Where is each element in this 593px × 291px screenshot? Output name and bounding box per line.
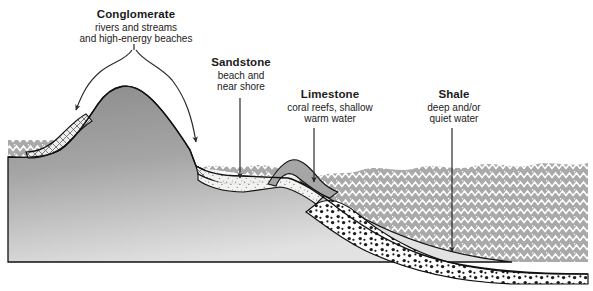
label-limestone-line2: warm water — [266, 113, 394, 125]
label-sandstone-title: Sandstone — [186, 56, 296, 70]
label-shale: Shale deep and/or quiet water — [398, 88, 510, 125]
label-conglomerate-line2: and high-energy beaches — [36, 33, 236, 45]
label-conglomerate-line1: rivers and streams — [36, 22, 236, 34]
label-sandstone-line1: beach and — [186, 70, 296, 82]
label-shale-line1: deep and/or — [398, 102, 510, 114]
label-limestone-line1: coral reefs, shallow — [266, 102, 394, 114]
label-limestone-title: Limestone — [266, 88, 394, 102]
label-shale-line2: quiet water — [398, 113, 510, 125]
label-conglomerate: Conglomerate rivers and streams and high… — [36, 8, 236, 45]
geology-cross-section-diagram: Conglomerate rivers and streams and high… — [0, 0, 593, 291]
label-conglomerate-title: Conglomerate — [36, 8, 236, 22]
label-limestone: Limestone coral reefs, shallow warm wate… — [266, 88, 394, 125]
label-shale-title: Shale — [398, 88, 510, 102]
